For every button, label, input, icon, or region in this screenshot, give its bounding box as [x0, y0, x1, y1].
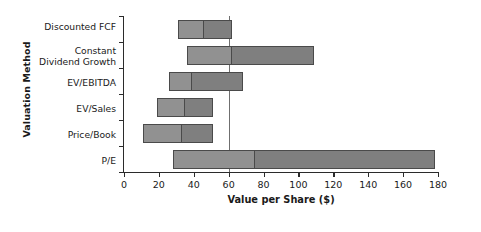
y-axis-tick	[119, 42, 124, 43]
bar-discounted-fcf	[178, 20, 232, 39]
bar-segment-high	[203, 21, 231, 38]
x-axis-tick-label: 140	[351, 179, 385, 190]
bar-ev-sales	[157, 98, 213, 117]
x-axis-tick	[264, 172, 265, 177]
x-axis-tick	[229, 172, 230, 177]
y-axis-tick	[119, 68, 124, 69]
x-axis-tick-label: 0	[107, 179, 141, 190]
x-axis-tick	[403, 172, 404, 177]
x-axis-spine	[123, 172, 439, 173]
bar-segment-low	[170, 73, 191, 90]
y-axis-label-discounted-fcf: Discounted FCF	[28, 22, 116, 33]
y-axis-label-ev-ebitda: EV/EBITDA	[28, 78, 116, 89]
y-axis-label-constant-dividend-growth: Constant Dividend Growth	[28, 46, 116, 67]
bar-segment-low	[144, 125, 181, 142]
x-axis-tick-label: 180	[421, 179, 455, 190]
x-axis-tick-label: 20	[142, 179, 176, 190]
bar-segment-low	[158, 99, 184, 116]
bar-segment-high	[191, 73, 241, 90]
y-axis-tick	[119, 146, 124, 147]
bar-p-e	[173, 150, 435, 169]
y-axis-label-ev-sales: EV/Sales	[28, 104, 116, 115]
x-axis-tick-label: 120	[316, 179, 350, 190]
bar-segment-high	[181, 125, 212, 142]
plot-area: 020406080100120140160180	[124, 16, 438, 172]
y-axis-label-price-book: Price/Book	[28, 130, 116, 141]
bar-segment-high	[231, 47, 313, 64]
valuation-range-chart: Valuation Method Discounted FCF Constant…	[0, 0, 481, 232]
x-axis-tick-label: 60	[212, 179, 246, 190]
x-axis-tick	[438, 172, 439, 177]
x-axis-tick	[194, 172, 195, 177]
x-axis-tick	[159, 172, 160, 177]
x-axis-tick-label: 80	[247, 179, 281, 190]
y-axis-label-pe: P/E	[28, 156, 116, 167]
bar-price-book	[143, 124, 213, 143]
y-axis-tick	[119, 94, 124, 95]
x-axis-tick	[124, 172, 125, 177]
x-axis-title: Value per Share ($)	[124, 194, 438, 205]
x-axis-tick-label: 40	[177, 179, 211, 190]
bar-segment-low	[179, 21, 203, 38]
bar-constant-dividend-growth	[187, 46, 314, 65]
x-axis-tick-label: 100	[281, 179, 315, 190]
x-axis-tick-label: 160	[386, 179, 420, 190]
bar-ev-ebitda	[169, 72, 242, 91]
bar-segment-high	[184, 99, 212, 116]
bar-segment-low	[188, 47, 232, 64]
bar-segment-low	[174, 151, 254, 168]
y-axis-tick	[119, 120, 124, 121]
y-axis-category-labels: Discounted FCF Constant Dividend Growth …	[28, 16, 116, 172]
y-axis-tick	[119, 16, 124, 17]
x-axis-tick	[333, 172, 334, 177]
x-axis-tick	[298, 172, 299, 177]
x-axis-tick	[368, 172, 369, 177]
bar-segment-high	[254, 151, 433, 168]
